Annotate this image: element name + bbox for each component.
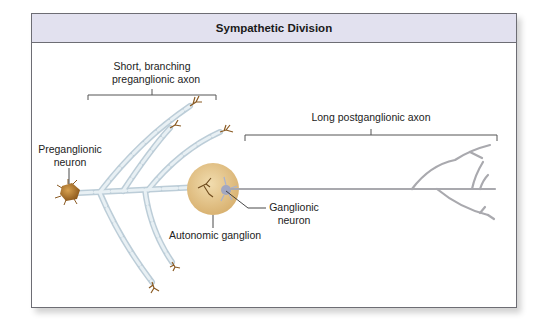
preganglionic-axon-label: Short, branching preganglionic axon [112, 60, 192, 86]
ganglionic-neuron-label: Ganglionic neuron [266, 201, 322, 227]
postganglionic-bracket [245, 129, 497, 141]
preganglionic-bracket [88, 89, 216, 100]
preganglionic-neuron [55, 179, 80, 205]
preganglionic-neuron-label: Preganglionic neuron [30, 143, 110, 169]
autonomic-ganglion-label: Autonomic ganglion [160, 229, 270, 242]
postganglionic-axon-label: Long postganglionic axon [306, 111, 436, 124]
